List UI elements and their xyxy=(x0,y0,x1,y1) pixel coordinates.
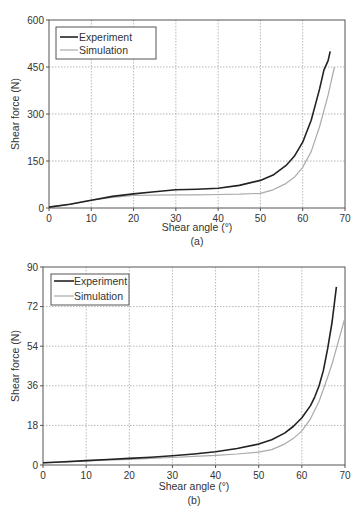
y-tick-label: 36 xyxy=(27,380,39,391)
y-tick-label: 300 xyxy=(27,109,44,120)
series-simulation-line xyxy=(49,67,334,207)
x-tick-label: 60 xyxy=(296,470,308,481)
x-tick-label: 70 xyxy=(339,213,351,224)
x-axis-label-a: Shear angle (°) xyxy=(162,221,233,233)
y-tick-label: 72 xyxy=(27,301,39,312)
x-tick-label: 20 xyxy=(124,470,136,481)
x-tick-label: 10 xyxy=(86,213,98,224)
series-lines-a xyxy=(49,51,334,207)
legend-a: Experiment Simulation xyxy=(56,27,156,59)
y-axis-label-b: Shear force (N) xyxy=(9,330,21,402)
legend-experiment-label: Experiment xyxy=(74,275,127,287)
figure: 0102030405060700150300450600 Experiment … xyxy=(0,0,363,514)
x-tick-label: 20 xyxy=(128,213,140,224)
y-tick-label: 150 xyxy=(27,156,44,167)
y-tick-label: 0 xyxy=(38,203,44,214)
legend-b: Experiment Simulation xyxy=(51,274,129,305)
chart-a: 0102030405060700150300450600 Experiment … xyxy=(9,15,351,248)
x-tick-label: 70 xyxy=(339,470,351,481)
x-axis-label-b: Shear angle (°) xyxy=(159,480,230,492)
chart-b: 01020304050607001836547290 Experiment Si… xyxy=(9,262,351,507)
panel-label-a: (a) xyxy=(191,235,204,247)
series-experiment-line xyxy=(43,287,336,463)
legend-experiment-label: Experiment xyxy=(79,31,132,43)
series-simulation-line xyxy=(43,318,345,463)
y-tick-label: 450 xyxy=(27,62,44,73)
x-tick-label: 10 xyxy=(81,470,93,481)
legend-simulation-label: Simulation xyxy=(74,290,123,302)
y-tick-label: 90 xyxy=(27,262,39,273)
x-tick-label: 50 xyxy=(255,213,267,224)
legend-simulation-label: Simulation xyxy=(79,44,128,56)
series-lines-b xyxy=(43,287,345,463)
x-tick-label: 0 xyxy=(46,213,52,224)
y-tick-label: 54 xyxy=(27,341,39,352)
x-tick-label: 60 xyxy=(297,213,309,224)
panel-label-b: (b) xyxy=(188,494,201,506)
y-tick-label: 18 xyxy=(27,420,39,431)
y-axis-label-a: Shear force (N) xyxy=(9,78,21,150)
y-tick-label: 0 xyxy=(32,460,38,471)
x-tick-label: 0 xyxy=(40,470,46,481)
x-tick-label: 50 xyxy=(253,470,265,481)
y-tick-label: 600 xyxy=(27,15,44,26)
